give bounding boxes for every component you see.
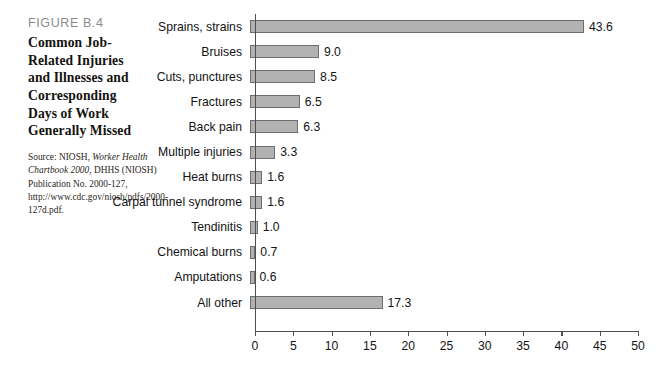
x-axis-tick-label: 35: [516, 339, 530, 353]
x-axis-tick: [638, 331, 639, 336]
bar-track: 1.6: [250, 190, 659, 215]
bar-category-label: Tendinitis: [0, 220, 250, 234]
bar-category-label: Heat burns: [0, 170, 250, 184]
x-axis-tick: [255, 331, 256, 336]
bar-value-label: 0.6: [260, 270, 277, 284]
x-axis-tick: [370, 331, 371, 336]
bar-category-label: Multiple injuries: [0, 145, 250, 159]
figure-container: FIGURE B.4 Common Job-Related Injuriesan…: [0, 0, 659, 373]
bar-value-label: 1.0: [263, 220, 280, 234]
bar-row: Chemical burns0.7: [0, 240, 659, 265]
bar-track: 8.5: [250, 64, 659, 89]
bar: [250, 95, 300, 108]
bar-value-label: 3.3: [280, 145, 297, 159]
x-axis-tick: [408, 331, 409, 336]
bar-category-label: All other: [0, 296, 250, 310]
bar-row: All other17.3: [0, 290, 659, 315]
bar-row: Back pain6.3: [0, 114, 659, 139]
bar-value-label: 0.7: [260, 245, 277, 259]
bar-track: 0.6: [250, 265, 659, 290]
bar: [250, 146, 275, 159]
x-axis-tick: [332, 331, 333, 336]
bar-category-label: Fractures: [0, 95, 250, 109]
x-axis-tick-label: 25: [440, 339, 454, 353]
x-axis-tick: [485, 331, 486, 336]
x-axis-tick: [561, 331, 562, 336]
x-axis-tick: [447, 331, 448, 336]
x-axis-tick-label: 15: [363, 339, 377, 353]
bar: [250, 45, 319, 58]
bar-track: 43.6: [250, 14, 659, 39]
bar-row: Carpal tunnel syndrome1.6: [0, 190, 659, 215]
bar-track: 1.6: [250, 165, 659, 190]
bar-row: Tendinitis1.0: [0, 215, 659, 240]
bar-row: Cuts, punctures8.5: [0, 64, 659, 89]
bar-category-label: Cuts, punctures: [0, 70, 250, 84]
x-axis-tick-label: 20: [401, 339, 415, 353]
bar-value-label: 6.3: [303, 120, 320, 134]
bar-row: Amputations0.6: [0, 265, 659, 290]
x-axis-tick-label: 30: [478, 339, 492, 353]
bar-track: 6.5: [250, 89, 659, 114]
x-axis-tick: [293, 331, 294, 336]
bar-category-label: Chemical burns: [0, 245, 250, 259]
y-axis-line: [255, 14, 256, 332]
bar-category-label: Back pain: [0, 120, 250, 134]
x-axis-tick-label: 0: [252, 339, 259, 353]
bar-row: Sprains, strains43.6: [0, 14, 659, 39]
bar-row: Bruises9.0: [0, 39, 659, 64]
bar-row: Multiple injuries3.3: [0, 139, 659, 164]
bar-track: 9.0: [250, 39, 659, 64]
x-axis-tick-label: 10: [325, 339, 339, 353]
bar: [250, 221, 258, 234]
bar: [250, 70, 315, 83]
bar: [250, 20, 584, 33]
x-axis-tick: [523, 331, 524, 336]
x-axis-tick-label: 45: [593, 339, 607, 353]
bar-track: 17.3: [250, 290, 659, 315]
bar-value-label: 6.5: [305, 95, 322, 109]
bar-category-label: Carpal tunnel syndrome: [0, 195, 250, 209]
x-axis-tick: [600, 331, 601, 336]
bar-rows-container: Sprains, strains43.6Bruises9.0Cuts, punc…: [0, 14, 659, 315]
bar-track: 6.3: [250, 114, 659, 139]
bar-value-label: 1.6: [267, 195, 284, 209]
bar: [250, 271, 255, 284]
bar-track: 0.7: [250, 240, 659, 265]
x-axis-tick-label: 5: [290, 339, 297, 353]
bar-category-label: Bruises: [0, 45, 250, 59]
bar-value-label: 9.0: [324, 45, 341, 59]
bar-chart: Sprains, strains43.6Bruises9.0Cuts, punc…: [0, 0, 659, 373]
x-axis-tick-label: 50: [631, 339, 645, 353]
bar-category-label: Sprains, strains: [0, 20, 250, 34]
bar-track: 1.0: [250, 215, 659, 240]
bar-value-label: 17.3: [388, 296, 412, 310]
bar-row: Heat burns1.6: [0, 165, 659, 190]
bar-row: Fractures6.5: [0, 89, 659, 114]
bar: [250, 296, 383, 309]
bar-value-label: 43.6: [589, 20, 613, 34]
bar-value-label: 1.6: [267, 170, 284, 184]
x-axis-tick-label: 40: [555, 339, 569, 353]
bar-track: 3.3: [250, 139, 659, 164]
bar-category-label: Amputations: [0, 270, 250, 284]
bar-value-label: 8.5: [320, 70, 337, 84]
bar: [250, 120, 298, 133]
